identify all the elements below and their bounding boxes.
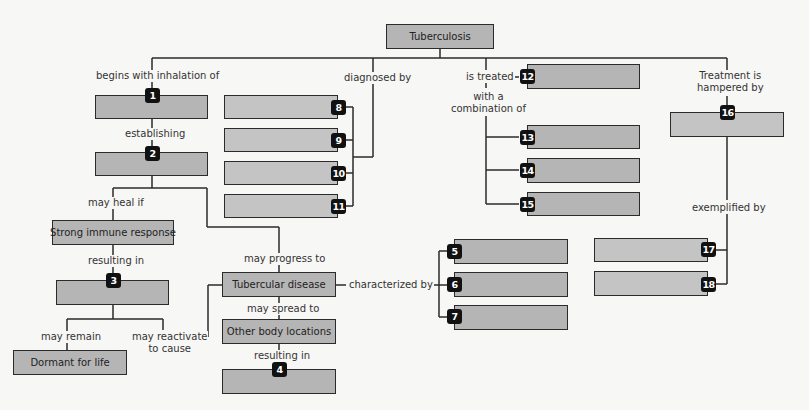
node-strong-immune-label: Strong immune response	[50, 227, 176, 238]
badge-5: 5	[447, 244, 462, 259]
blank-box-13[interactable]	[527, 125, 640, 149]
badge-12: 12	[520, 69, 535, 84]
node-tubercular-disease: Tubercular disease	[222, 272, 336, 297]
blank-box-9[interactable]	[224, 128, 338, 152]
link-characterized-by: characterized by	[348, 279, 434, 291]
badge-7: 7	[447, 309, 462, 324]
badge-18: 18	[701, 277, 716, 292]
badge-2: 2	[145, 146, 160, 161]
node-tubercular-label: Tubercular disease	[232, 279, 325, 290]
link-treatment-is: Treatment is	[697, 70, 764, 82]
node-dormant-for-life: Dormant for life	[13, 350, 127, 375]
badge-3: 3	[106, 273, 121, 288]
concept-map: Tuberculosis begins with inhalation of e…	[0, 0, 809, 410]
link-may-heal-if: may heal if	[87, 197, 145, 209]
badge-8: 8	[331, 100, 346, 115]
blank-box-8[interactable]	[224, 95, 338, 119]
badge-10: 10	[331, 166, 346, 181]
badge-14: 14	[520, 163, 535, 178]
badge-16: 16	[720, 105, 735, 120]
badge-13: 13	[520, 130, 535, 145]
node-dormant-label: Dormant for life	[30, 357, 109, 368]
link-resulting-in-2: resulting in	[253, 350, 311, 362]
link-may-reactivate-line1: may reactivate	[132, 331, 207, 343]
badge-4: 4	[272, 362, 287, 377]
link-diagnosed-by: diagnosed by	[343, 72, 412, 84]
badge-15: 15	[520, 197, 535, 212]
link-treatment-hampered: Treatment is hampered by	[696, 70, 765, 94]
link-resulting-in-1: resulting in	[87, 255, 145, 267]
badge-6: 6	[447, 277, 462, 292]
badge-9: 9	[331, 133, 346, 148]
blank-box-5[interactable]	[454, 239, 568, 264]
link-may-spread-to: may spread to	[246, 303, 320, 315]
link-combination-of: combination of	[451, 103, 526, 115]
blank-box-15[interactable]	[527, 192, 640, 216]
blank-box-10[interactable]	[224, 161, 338, 185]
blank-box-14[interactable]	[527, 158, 640, 183]
badge-11: 11	[331, 199, 346, 214]
blank-box-7[interactable]	[454, 305, 568, 330]
node-other-body-locations: Other body locations	[222, 319, 336, 344]
blank-box-18[interactable]	[594, 271, 708, 296]
link-may-reactivate: may reactivate to cause	[131, 331, 208, 355]
link-begins-with: begins with inhalation of	[95, 70, 220, 82]
link-exemplified-by: exemplified by	[691, 202, 767, 214]
link-may-progress-to: may progress to	[243, 253, 326, 265]
blank-box-11[interactable]	[224, 194, 338, 218]
link-hampered-by: hampered by	[697, 82, 764, 94]
blank-box-6[interactable]	[454, 272, 568, 297]
node-other-body-label: Other body locations	[227, 326, 331, 337]
node-strong-immune-response: Strong immune response	[52, 220, 174, 245]
link-may-remain: may remain	[40, 331, 102, 343]
badge-1: 1	[145, 88, 160, 103]
link-may-reactivate-line2: to cause	[132, 343, 207, 355]
root-node-tuberculosis: Tuberculosis	[386, 24, 494, 49]
blank-box-17[interactable]	[594, 238, 708, 262]
blank-box-12[interactable]	[527, 64, 640, 89]
link-combination: with a combination of	[450, 91, 527, 115]
link-establishing: establishing	[124, 128, 186, 140]
link-is-treated: is treated	[465, 71, 515, 83]
badge-17: 17	[701, 242, 716, 257]
root-label: Tuberculosis	[409, 31, 470, 42]
link-with-a: with a	[451, 91, 526, 103]
